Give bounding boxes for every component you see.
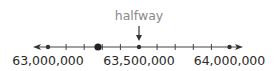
halfway-label: halfway	[115, 8, 164, 23]
label-mid: 63,500,000	[103, 53, 175, 68]
label-min: 63,000,000	[12, 53, 84, 68]
point-marked	[94, 43, 101, 50]
point-halfway	[137, 45, 141, 49]
point-max	[227, 45, 231, 49]
label-max: 64,000,000	[194, 53, 266, 68]
down-arrow-icon	[136, 26, 142, 41]
number-line-diagram: halfway 63,	[0, 0, 276, 71]
point-min	[46, 45, 50, 49]
